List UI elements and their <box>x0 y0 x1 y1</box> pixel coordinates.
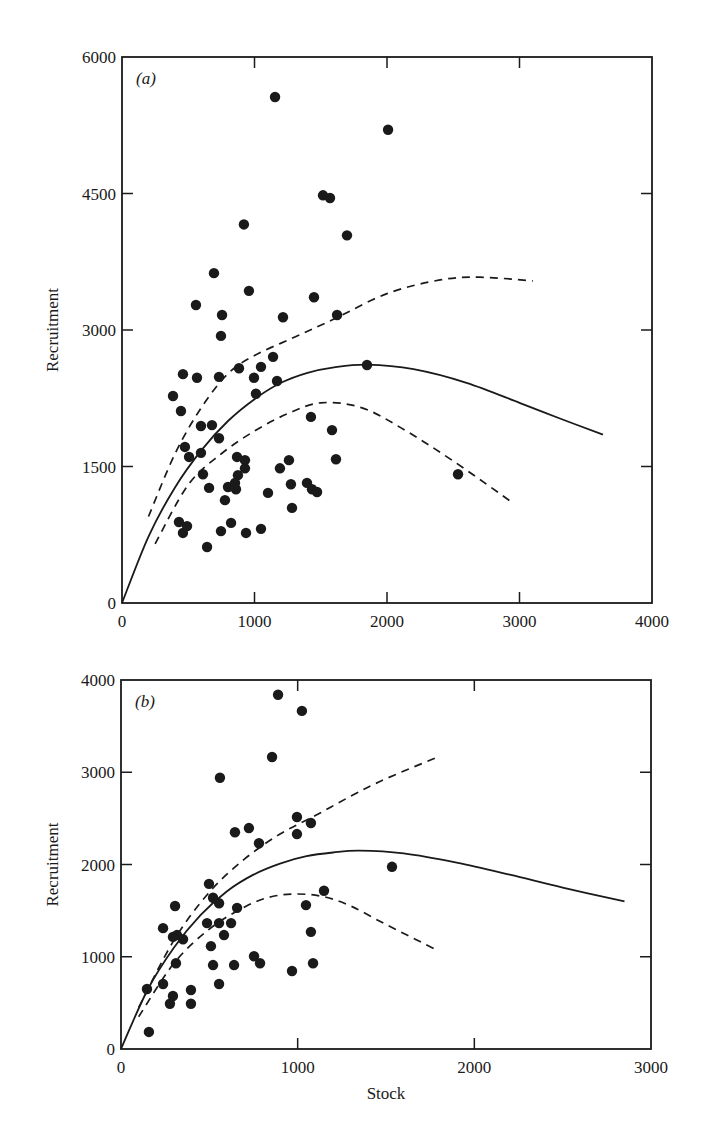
data-point <box>215 773 225 783</box>
data-point <box>217 310 227 320</box>
data-point <box>196 448 206 458</box>
x-axis-title: Stock <box>367 1084 406 1103</box>
data-point <box>171 958 181 968</box>
data-point <box>267 752 277 762</box>
data-point <box>268 352 278 362</box>
data-point <box>168 391 178 401</box>
data-point <box>256 524 266 534</box>
data-point <box>312 487 322 497</box>
y-tick-label: 2000 <box>81 856 115 875</box>
data-point <box>301 900 311 910</box>
data-point <box>273 690 283 700</box>
plot-frame <box>122 57 652 603</box>
data-point <box>292 829 302 839</box>
y-tick-label: 4500 <box>82 185 116 204</box>
data-point <box>209 268 219 278</box>
data-point <box>204 879 214 889</box>
data-point <box>244 823 254 833</box>
confidence-bound-curve <box>139 894 436 1017</box>
chart-b-plot: 010002000300001000200030004000(b)Recruit… <box>0 650 711 1147</box>
data-point <box>204 483 214 493</box>
chart-panel-a: 0100020003000400001500300045006000(a)Rec… <box>0 0 711 650</box>
data-point <box>241 528 251 538</box>
data-point <box>226 518 236 528</box>
data-point <box>263 488 273 498</box>
data-point <box>214 372 224 382</box>
data-point <box>319 886 329 896</box>
data-point <box>176 406 186 416</box>
data-point <box>254 838 264 848</box>
data-point <box>309 292 319 302</box>
y-tick-label: 3000 <box>82 321 116 340</box>
data-point <box>207 420 217 430</box>
data-point <box>306 818 316 828</box>
y-tick-label: 1000 <box>81 948 115 967</box>
data-point <box>292 812 302 822</box>
data-point <box>165 999 175 1009</box>
data-point <box>186 985 196 995</box>
data-point <box>249 373 259 383</box>
y-tick-label: 4000 <box>81 671 115 690</box>
data-point <box>142 984 152 994</box>
x-tick-label: 3000 <box>634 1058 668 1077</box>
data-point <box>186 999 196 1009</box>
data-point <box>278 312 288 322</box>
data-point <box>196 421 206 431</box>
data-point <box>192 373 202 383</box>
data-point <box>297 706 307 716</box>
y-tick-label: 0 <box>107 1040 116 1059</box>
data-point <box>331 454 341 464</box>
chart-panel-b: 010002000300001000200030004000(b)Recruit… <box>0 650 711 1147</box>
x-tick-label: 2000 <box>457 1058 491 1077</box>
x-tick-label: 0 <box>118 612 127 631</box>
data-point <box>214 979 224 989</box>
data-point <box>286 479 296 489</box>
data-point <box>144 1027 154 1037</box>
panel-label: (a) <box>136 69 156 88</box>
data-point <box>219 930 229 940</box>
data-point <box>216 526 226 536</box>
data-point <box>226 918 236 928</box>
data-point <box>230 827 240 837</box>
data-point <box>191 300 201 310</box>
y-axis-title: Recruitment <box>43 288 62 372</box>
x-tick-label: 1000 <box>238 612 272 631</box>
data-point <box>180 442 190 452</box>
data-point <box>214 898 224 908</box>
data-point <box>198 469 208 479</box>
data-point <box>308 958 318 968</box>
data-point <box>287 503 297 513</box>
data-point <box>214 918 224 928</box>
y-axis-title: Recruitment <box>43 822 62 906</box>
panel-label: (b) <box>135 692 155 711</box>
data-point <box>231 484 241 494</box>
data-point <box>327 425 337 435</box>
y-tick-label: 0 <box>108 594 117 613</box>
data-point <box>184 452 194 462</box>
fitted-curve <box>122 365 603 603</box>
y-tick-label: 3000 <box>81 763 115 782</box>
data-point <box>332 310 342 320</box>
data-point <box>178 934 188 944</box>
data-point <box>232 903 242 913</box>
data-point <box>170 901 180 911</box>
fitted-curve <box>121 851 625 1049</box>
data-point <box>208 960 218 970</box>
x-tick-label: 0 <box>117 1058 126 1077</box>
data-point <box>387 862 397 872</box>
data-point <box>453 469 463 479</box>
data-point <box>362 360 372 370</box>
data-point <box>256 362 266 372</box>
data-point <box>239 219 249 229</box>
x-tick-label: 2000 <box>370 612 404 631</box>
data-point <box>234 363 244 373</box>
data-point <box>220 495 230 505</box>
data-point <box>306 412 316 422</box>
x-tick-label: 4000 <box>635 612 669 631</box>
data-point <box>244 286 254 296</box>
data-point <box>202 542 212 552</box>
data-point <box>251 389 261 399</box>
x-tick-label: 3000 <box>503 612 537 631</box>
data-point <box>178 369 188 379</box>
data-point <box>214 433 224 443</box>
